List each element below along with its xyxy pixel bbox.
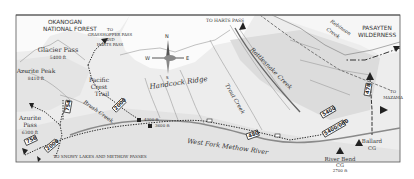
ballard-cg: CG — [368, 145, 376, 151]
okanogan-label-1: OKANOGAN — [48, 19, 82, 25]
to-harts-pass: TO HARTS PASS — [206, 18, 244, 23]
to-snowy-lakes: TO SNOWY LAKES AND METHOW PASSES — [53, 154, 147, 159]
elev-3600: 3600 ft — [155, 123, 170, 128]
glacier-pass-elev: 5400 ft — [50, 55, 67, 60]
pct-label-2: Crest — [91, 83, 108, 90]
compass-e: E — [186, 55, 189, 61]
pasayten-label-2: WILDERNESS — [358, 32, 397, 38]
river-bend-elev: 2700 ft — [333, 168, 348, 173]
glacier-pass-label: Glacier Pass — [38, 46, 79, 54]
bridge-marker-2 — [275, 134, 280, 137]
trail-map: N W E S OKANOGAN NATIONAL FOREST PASAYTE… — [0, 0, 414, 179]
pasayten-label-1: PASAYTEN — [362, 25, 391, 31]
to-mazama-1: TO — [390, 89, 397, 94]
azurite-peak-label: Azurite Peak — [16, 67, 56, 74]
azurite-peak-elev: 8410 ft — [28, 76, 45, 81]
to-mazama-2: MAZAMA — [383, 95, 403, 100]
elev-4300: 4300 ft — [144, 117, 159, 122]
compass-w: W — [145, 55, 150, 61]
bridge-marker — [207, 119, 212, 122]
trailhead-3600 — [148, 124, 152, 128]
trailhead-4300 — [137, 118, 141, 122]
ballard-label: Ballard — [362, 138, 383, 144]
to-grasshopper-4: HARTS PASS — [97, 42, 124, 47]
azurite-pass-elev: 6300 ft — [22, 130, 39, 135]
compass-n: N — [165, 33, 169, 39]
azurite-pass-label: Azurite — [18, 114, 42, 121]
pct-label-3: Trail — [95, 90, 109, 97]
azurite-pass-label-2: Pass — [23, 121, 37, 128]
pct-label-1: Pacific — [89, 76, 110, 83]
